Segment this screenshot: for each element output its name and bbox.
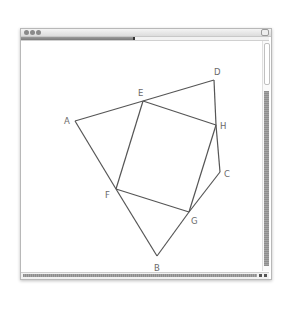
edge-EH bbox=[143, 101, 216, 125]
label-D: D bbox=[214, 67, 221, 77]
edge-HG bbox=[189, 125, 216, 212]
edge-GF bbox=[116, 189, 189, 212]
label-C: C bbox=[224, 169, 230, 179]
edge-CG bbox=[189, 172, 220, 212]
label-A: A bbox=[64, 116, 70, 126]
edge-FA bbox=[75, 121, 116, 189]
edge-FE bbox=[116, 101, 143, 189]
label-H: H bbox=[220, 121, 226, 131]
label-B: B bbox=[154, 263, 160, 273]
diagram-labels: A B C D E F G H bbox=[64, 67, 230, 273]
edge-ED bbox=[143, 80, 214, 101]
label-F: F bbox=[105, 190, 110, 200]
edge-BF bbox=[116, 189, 157, 256]
edge-GB bbox=[157, 212, 189, 256]
diagram-edges bbox=[75, 80, 220, 256]
label-G: G bbox=[191, 216, 198, 226]
geometry-diagram: A B C D E F G H bbox=[0, 0, 290, 325]
edge-DH bbox=[214, 80, 216, 125]
label-E: E bbox=[138, 88, 143, 98]
edge-AE bbox=[75, 101, 143, 121]
edge-HC bbox=[216, 125, 220, 172]
